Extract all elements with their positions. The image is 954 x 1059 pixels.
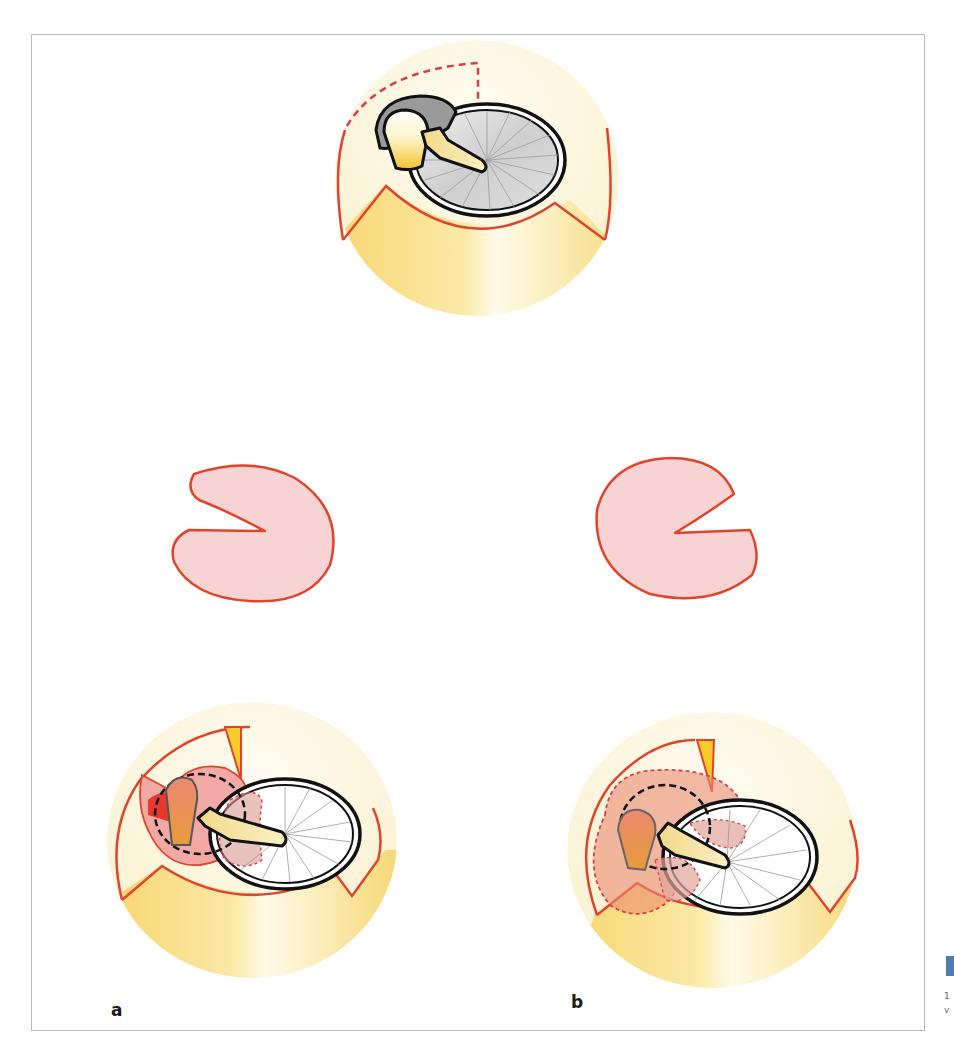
side-caption-line2: v [944,1004,949,1016]
figure-canvas [0,0,954,1059]
panel-label-a: a [111,1000,122,1020]
caption-marker [946,956,954,976]
panel-b-eye-with-dial [560,712,870,1000]
right-kidney-shape [597,458,757,598]
side-caption-line1: 1 [944,990,950,1002]
top-view-eye-with-dial [320,40,640,330]
panel-a-eye-with-dial [100,702,400,990]
left-kidney-shape [173,465,334,601]
panel-label-b: b [571,992,583,1012]
